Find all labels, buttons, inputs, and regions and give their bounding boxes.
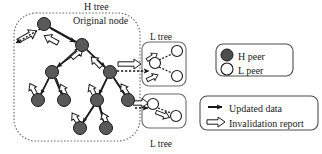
h-tree-node xyxy=(74,122,87,135)
h-tree-node xyxy=(32,94,45,107)
h-tree-node-root xyxy=(38,18,51,31)
figure-container: H tree Original node L tree L tree H pee… xyxy=(0,0,322,154)
l-tree-node xyxy=(172,46,183,57)
l-tree-top-label: L tree xyxy=(150,33,172,43)
h-tree-node xyxy=(46,66,59,79)
h-tree-node xyxy=(76,39,89,52)
h-tree-label: H tree xyxy=(84,2,109,12)
legend-h-peer-icon xyxy=(221,49,233,61)
l-tree-node xyxy=(150,58,161,69)
h-tree-node xyxy=(91,94,104,107)
h-tree-node xyxy=(58,94,71,107)
h-tree-node xyxy=(100,122,113,135)
l-tree-node xyxy=(148,99,159,110)
legend-invalidation-report-icon xyxy=(207,117,225,127)
h-tree-node xyxy=(122,94,135,107)
diagram-svg xyxy=(0,0,322,154)
legend-l-peer-icon xyxy=(221,63,233,75)
l-tree-bottom-label: L tree xyxy=(150,140,172,150)
l-tree-node xyxy=(171,111,182,122)
legend-h-peer-label: H peer xyxy=(238,52,265,62)
legend-invalidation-report-label: Invalidation report xyxy=(229,119,304,129)
l-tree-node xyxy=(172,71,183,82)
legend-l-peer-label: L peer xyxy=(238,66,263,76)
h-tree-node xyxy=(104,66,117,79)
legend-updated-data-label: Updated data xyxy=(229,104,282,114)
original-node-label: Original node xyxy=(73,16,128,26)
